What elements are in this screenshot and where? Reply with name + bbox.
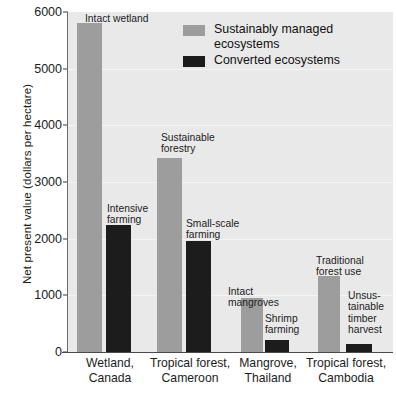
x-axis-category-label: Tropical forest, Cambodia	[300, 356, 392, 385]
y-axis-tick-labels: 0100020003000400050006000	[18, 0, 62, 407]
bar-label-sustainably-managed: Intact wetland	[85, 13, 165, 24]
legend-label: Converted ecosystems	[214, 53, 340, 68]
y-axis-tick-label: 1000	[18, 288, 62, 302]
bar-label-sustainably-managed: Traditional forest use	[316, 255, 376, 278]
y-axis-tick-label: 6000	[18, 5, 62, 19]
y-axis-line	[67, 12, 68, 353]
bar-sustainably-managed	[77, 23, 102, 352]
legend-label: Sustainably managed ecosystems	[214, 22, 340, 52]
chart-figure: Net present value (dollars per hectare) …	[0, 0, 396, 407]
y-axis-tick-label: 4000	[18, 118, 62, 132]
bar-label-sustainably-managed: Sustainable forestry	[161, 132, 221, 155]
legend-swatch-converted	[183, 56, 205, 67]
x-axis-category-label: Wetland, Canada	[68, 356, 152, 385]
bar-label-converted: Small-scale farming	[186, 218, 248, 241]
x-axis-category-label: Tropical forest, Cameroon	[144, 356, 236, 385]
legend-swatch-managed	[183, 25, 205, 36]
bar-converted	[265, 340, 289, 352]
y-axis-tick-label: 2000	[18, 232, 62, 246]
y-axis-tick-label: 0	[18, 345, 62, 359]
y-axis-tick-label: 3000	[18, 175, 62, 189]
bar-converted	[186, 241, 211, 352]
legend-item: Converted ecosystems	[183, 53, 340, 68]
chart-legend: Sustainably managed ecosystemsConverted …	[183, 22, 340, 69]
bar-label-converted: Unsus- tainable timber harvest	[348, 290, 394, 336]
gridline	[68, 182, 393, 183]
legend-item: Sustainably managed ecosystems	[183, 22, 340, 52]
bar-label-sustainably-managed: Intact mangroves	[228, 286, 286, 309]
bar-sustainably-managed	[318, 276, 340, 353]
y-axis-tick-label: 5000	[18, 62, 62, 76]
bar-converted	[106, 225, 131, 353]
bar-label-converted: Shrimp farming	[265, 313, 315, 336]
bar-sustainably-managed	[157, 158, 182, 352]
gridline	[68, 125, 393, 126]
bar-label-converted: Intensive farming	[107, 203, 159, 226]
x-axis-line	[62, 352, 393, 353]
x-axis-category-label: Mangrove, Thailand	[228, 356, 308, 385]
bar-converted	[346, 344, 372, 353]
